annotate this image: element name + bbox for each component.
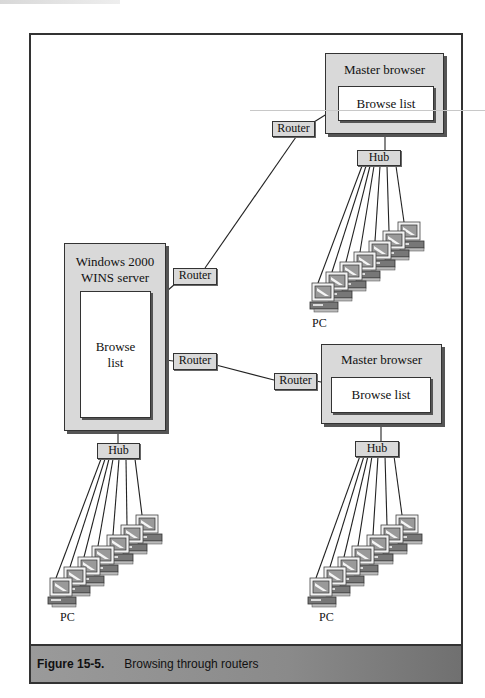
router-upper-left: Router (173, 268, 217, 285)
router-top-right: Router (272, 121, 315, 137)
browse-list-wins-line1: Browse (96, 339, 136, 355)
browse-list-bottom: Browse list (331, 377, 431, 413)
figure-number: Figure 15-5. (37, 657, 104, 671)
hub-bottom: Hub (355, 441, 399, 457)
wins-server-title-line2: WINS server (65, 270, 165, 286)
router-bottom-right: Router (274, 373, 317, 390)
router-middle: Router (173, 353, 217, 370)
pc-label-left: PC (60, 610, 75, 625)
browse-list-wins-line2: list (108, 355, 124, 371)
pc-label-bottom-right: PC (319, 610, 334, 625)
pc-cluster-top-right (310, 222, 424, 312)
hub-top: Hub (357, 150, 401, 166)
scan-artifact-line (250, 110, 485, 111)
wins-server-title-line1: Windows 2000 (65, 254, 165, 270)
figure-caption: Figure 15-5. Browsing through routers (29, 644, 463, 684)
pc-cluster-bottom-right (308, 515, 422, 607)
browse-list-wins: Browse list (80, 291, 151, 418)
master-browser-bottom-title: Master browser (322, 352, 441, 368)
hub-left: Hub (97, 443, 140, 459)
browse-list-top: Browse list (338, 86, 434, 121)
figure-title: Browsing through routers (124, 657, 258, 671)
pc-label-top-right: PC (312, 316, 327, 331)
pc-cluster-left (48, 515, 162, 607)
master-browser-top-title: Master browser (326, 62, 443, 78)
